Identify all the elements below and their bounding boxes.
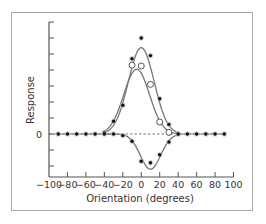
filled-point (121, 134, 124, 137)
x-tick-label: 80 (209, 179, 221, 190)
filled-point (140, 160, 143, 163)
open-circle-point (138, 63, 144, 69)
filled-point (84, 132, 87, 135)
x-tick-label: 60 (191, 179, 203, 190)
filled-point (149, 54, 152, 57)
data-points (55, 35, 227, 165)
filled-point (66, 132, 69, 135)
open-circle-point (166, 129, 172, 135)
filled-point (121, 104, 124, 107)
axes: −100−80−60−40−200204060801000 (36, 22, 243, 190)
filled-point (186, 132, 189, 135)
filled-point (176, 132, 179, 135)
filled-point (140, 36, 143, 39)
filled-point (213, 132, 216, 135)
filled-point (158, 97, 161, 100)
y-axis-title: Response (25, 76, 36, 124)
x-tick-label: 20 (154, 179, 166, 190)
filled-point (158, 153, 161, 156)
filled-point (130, 140, 133, 143)
chart: −100−80−60−40−200204060801000 Orientatio… (0, 0, 266, 224)
x-tick-label: −80 (57, 179, 77, 190)
filled-point (130, 57, 133, 60)
x-tick-label: −20 (113, 179, 133, 190)
filled-point (75, 132, 78, 135)
x-axis-title: Orientation (degrees) (86, 193, 194, 204)
filled-point (223, 132, 226, 135)
filled-point (57, 132, 60, 135)
x-tick-label: 40 (172, 179, 184, 190)
filled-point (195, 132, 198, 135)
open-circle-point (157, 119, 163, 125)
x-tick-label: 0 (138, 179, 144, 190)
x-tick-label: 100 (224, 179, 242, 190)
filled-point (149, 161, 152, 164)
x-tick-label: −60 (76, 179, 96, 190)
x-tick-label: −40 (94, 179, 114, 190)
filled-point (167, 140, 170, 143)
open-circle-point (147, 81, 153, 87)
filled-point (112, 120, 115, 123)
y-tick-label: 0 (36, 129, 42, 140)
open-circle-point (129, 62, 135, 68)
filled-point (204, 132, 207, 135)
filled-point (93, 132, 96, 135)
filled-point (112, 132, 115, 135)
filled-point (167, 123, 170, 126)
filled-point (103, 132, 106, 135)
